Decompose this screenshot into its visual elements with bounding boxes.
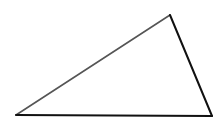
triangle-diagram (0, 0, 220, 124)
background (0, 0, 220, 124)
edge-left-right (16, 115, 212, 116)
